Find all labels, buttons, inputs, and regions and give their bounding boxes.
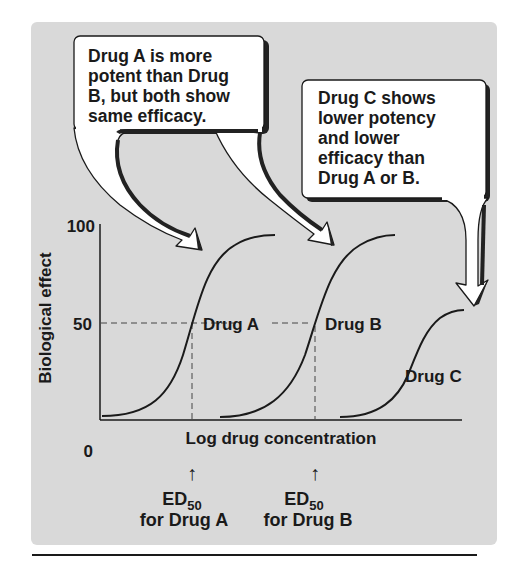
x-axis-label: Log drug concentration [186,429,377,448]
dose-response-figure: Drug A is more potent than Drug B, but b… [0,0,531,569]
svg-text:for Drug A: for Drug A [140,510,228,530]
y-tick-100: 100 [67,217,95,236]
up-arrow-icon: ↑ [187,462,197,484]
svg-text:for Drug B: for Drug B [264,510,353,530]
label-drug-b: Drug B [325,315,382,334]
y-tick-50: 50 [73,315,92,334]
label-drug-a: Drug A [203,315,259,334]
label-drug-c: Drug C [405,367,462,386]
up-arrow-icon: ↑ [310,462,320,484]
y-axis-label: Biological effect [36,252,55,384]
y-tick-0: 0 [84,442,93,461]
